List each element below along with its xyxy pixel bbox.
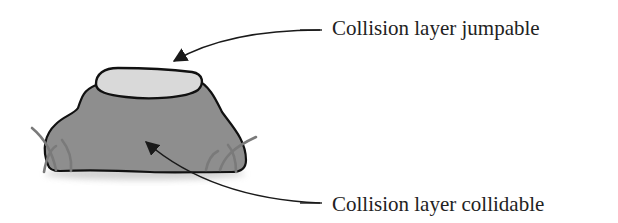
label-collision-layer-jumpable: Collision layer jumpable — [332, 18, 540, 39]
collision-layers-diagram: Collision layer jumpable Collision layer… — [0, 0, 618, 223]
arrow-jumpable-icon — [174, 30, 320, 61]
label-collision-layer-collidable: Collision layer collidable — [332, 194, 544, 215]
rock-jumpable-top — [96, 68, 202, 98]
